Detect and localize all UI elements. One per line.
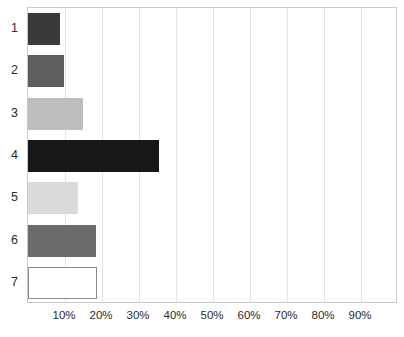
y-axis-category-labels: 1234567 bbox=[0, 7, 23, 303]
bar-row bbox=[28, 98, 396, 130]
x-axis-tick-labels: 10%20%30%40%50%60%70%80%90% bbox=[0, 310, 404, 330]
x-axis-tick-80pct: 80% bbox=[311, 310, 334, 322]
bar-row bbox=[28, 140, 396, 172]
x-axis-tick-40pct: 40% bbox=[163, 310, 186, 322]
x-axis-tick-50pct: 50% bbox=[200, 310, 223, 322]
bar-7[interactable] bbox=[28, 267, 97, 299]
bar-row bbox=[28, 182, 396, 214]
bar-5[interactable] bbox=[28, 182, 78, 214]
y-axis-label-5: 5 bbox=[11, 191, 18, 204]
bar-4[interactable] bbox=[28, 140, 159, 172]
bar-6[interactable] bbox=[28, 225, 96, 257]
plot-area bbox=[27, 7, 397, 303]
bars-layer bbox=[28, 8, 396, 302]
bar-row bbox=[28, 55, 396, 87]
y-axis-label-3: 3 bbox=[11, 107, 18, 120]
x-axis-tick-10pct: 10% bbox=[52, 310, 75, 322]
x-axis-tick-20pct: 20% bbox=[89, 310, 112, 322]
bar-1[interactable] bbox=[28, 13, 60, 45]
x-axis-tick-90pct: 90% bbox=[348, 310, 371, 322]
y-axis-label-1: 1 bbox=[11, 22, 18, 35]
bar-row bbox=[28, 13, 396, 45]
x-axis-tick-60pct: 60% bbox=[237, 310, 260, 322]
y-axis-label-2: 2 bbox=[11, 64, 18, 77]
y-axis-label-4: 4 bbox=[11, 149, 18, 162]
bar-2[interactable] bbox=[28, 55, 64, 87]
x-axis-tick-30pct: 30% bbox=[126, 310, 149, 322]
y-axis-label-6: 6 bbox=[11, 234, 18, 247]
x-axis-tick-70pct: 70% bbox=[274, 310, 297, 322]
bar-3[interactable] bbox=[28, 98, 83, 130]
bar-chart: 1234567 10%20%30%40%50%60%70%80%90% bbox=[0, 0, 404, 337]
y-axis-label-7: 7 bbox=[11, 276, 18, 289]
bar-row bbox=[28, 225, 396, 257]
bar-row bbox=[28, 267, 396, 299]
